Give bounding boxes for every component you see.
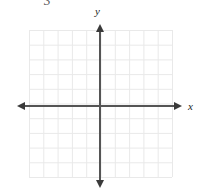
arrow-up-icon bbox=[96, 24, 104, 32]
y-axis-label: y bbox=[95, 6, 100, 17]
axis-lines bbox=[19, 26, 180, 186]
arrow-left-icon bbox=[17, 102, 25, 110]
arrow-down-icon bbox=[96, 180, 104, 188]
arrow-right-icon bbox=[174, 102, 182, 110]
coordinate-plane-svg bbox=[0, 0, 203, 193]
coordinate-plane-figure: 3 bbox=[0, 0, 203, 193]
x-axis-label: x bbox=[188, 101, 193, 112]
